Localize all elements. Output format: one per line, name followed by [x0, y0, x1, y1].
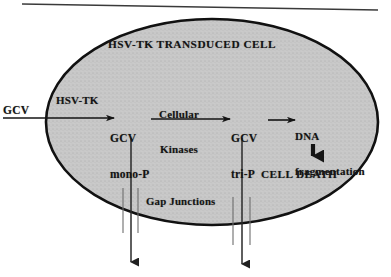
gcv-mono-line-2: mono-P	[110, 168, 150, 180]
gcv-mono-phosphate-label: GCV mono-P	[110, 108, 150, 205]
gcv-tri-line-1: GCV	[231, 132, 257, 144]
gcv-tri-line-2: tri-P	[231, 168, 257, 180]
gcv-mono-line-1: GCV	[110, 132, 150, 144]
dna-fragmentation-label: DNA fragmentation	[295, 108, 365, 200]
cellular-kinases-line-2: Kinases	[159, 144, 199, 156]
gcv-tri-phosphate-label: GCV tri-P	[231, 108, 257, 205]
cellular-kinases-line-1: Cellular	[159, 109, 199, 121]
pathway-diagram-figure: HSV-TK TRANSDUCED CELL GCV HSV-TK GCV mo…	[0, 0, 391, 277]
cell-title-label: HSV-TK TRANSDUCED CELL	[108, 39, 276, 51]
dna-fragmentation-line-1: DNA	[295, 131, 365, 143]
hsv-tk-enzyme-label: HSV-TK	[56, 95, 99, 107]
scan-artifact-line	[22, 4, 378, 10]
gcv-input-label: GCV	[3, 104, 29, 116]
cell-death-label: CELL DEATH	[261, 169, 337, 181]
cellular-kinases-label: Cellular Kinases	[159, 86, 199, 178]
gap-junctions-label: Gap Junctions	[146, 196, 216, 207]
